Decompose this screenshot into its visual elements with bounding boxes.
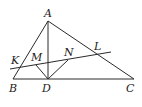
segment-ac bbox=[48, 21, 134, 79]
segment-md bbox=[36, 65, 48, 79]
label-d: D bbox=[41, 82, 51, 95]
geometry-diagram: A B C D K L M N bbox=[0, 0, 142, 107]
label-a: A bbox=[43, 7, 52, 20]
label-l: L bbox=[93, 40, 101, 53]
segment-nd bbox=[48, 60, 68, 79]
label-m: M bbox=[30, 51, 43, 64]
label-c: C bbox=[126, 82, 135, 95]
label-b: B bbox=[8, 82, 17, 95]
label-n: N bbox=[63, 46, 74, 59]
segment-ab bbox=[13, 21, 48, 79]
label-k: K bbox=[10, 54, 20, 67]
